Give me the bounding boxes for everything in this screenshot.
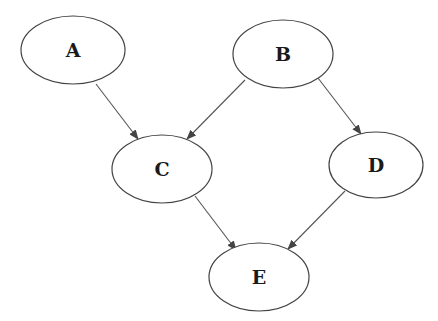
nodes-group: ABCDE	[21, 16, 423, 311]
node-label: A	[65, 39, 81, 61]
node-d: D	[329, 132, 423, 198]
node-label: D	[368, 154, 384, 176]
node-e: E	[209, 243, 309, 311]
edge-a-to-c	[96, 84, 138, 139]
node-label: C	[154, 158, 169, 180]
node-b: B	[233, 20, 333, 88]
edge-c-to-e	[195, 196, 236, 250]
edge-b-to-c	[187, 80, 245, 139]
node-label: B	[275, 43, 291, 65]
edge-b-to-d	[318, 78, 361, 134]
edge-d-to-e	[288, 191, 345, 249]
node-c: C	[112, 135, 212, 203]
dag-diagram: ABCDE	[0, 0, 438, 321]
node-a: A	[21, 16, 125, 84]
node-label: E	[252, 266, 266, 288]
